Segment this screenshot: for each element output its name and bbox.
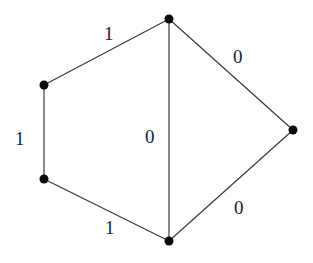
graph-diagram: 1 0 1 0 1 0 [0,0,313,263]
edge-top-right [169,19,293,130]
weight-label-middle: 0 [145,126,155,147]
node-right [289,126,298,135]
weight-label-bottom-left: 1 [105,217,115,238]
edge-bottom-right [169,130,293,241]
node-upper-left [40,81,49,90]
weight-label-bottom-right: 0 [234,197,244,218]
node-lower-left [40,175,49,184]
weight-label-top-right: 0 [233,46,243,67]
weight-label-left: 1 [15,128,25,149]
node-bottom [165,237,174,246]
node-top [165,15,174,24]
graph-svg: 1 0 1 0 1 0 [0,0,313,263]
weight-label-top-left: 1 [104,23,114,44]
